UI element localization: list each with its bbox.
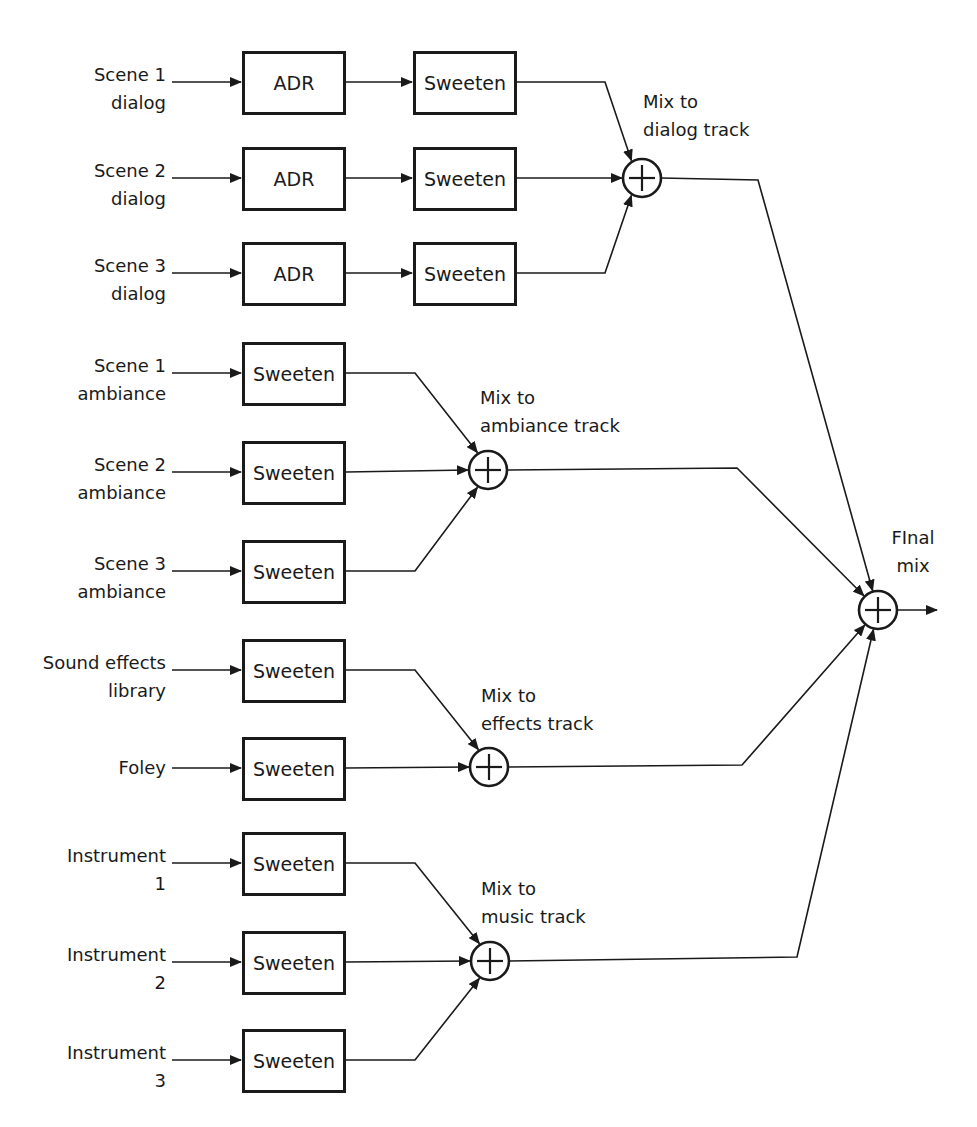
sweeten-box-dialog-2: Sweeten bbox=[413, 147, 517, 211]
signal-flow-diagram: Scene 1dialogADRSweetenScene 2dialogADRS… bbox=[0, 0, 977, 1127]
mix-label-effects-line: effects track bbox=[481, 710, 593, 738]
input-label-ambiance-3-line: ambiance bbox=[78, 578, 166, 606]
wire-effects-1-to-mix bbox=[346, 670, 478, 750]
wire-music-1-to-mix bbox=[346, 863, 479, 944]
input-label-effects-1-line: library bbox=[43, 677, 166, 705]
sweeten-box-ambiance-1-label: Sweeten bbox=[253, 363, 335, 385]
input-label-music-3-line: Instrument bbox=[67, 1039, 166, 1067]
mix-label-effects-line: Mix to bbox=[481, 682, 593, 710]
final-mix-label: FInalmix bbox=[833, 524, 977, 580]
sweeten-box-music-3-label: Sweeten bbox=[253, 1050, 335, 1072]
sweeten-box-ambiance-3-label: Sweeten bbox=[253, 561, 335, 583]
sum-node-music bbox=[471, 942, 509, 980]
adr-box-dialog-3-label: ADR bbox=[274, 263, 315, 285]
input-label-music-1: Instrument1 bbox=[67, 842, 166, 898]
input-label-ambiance-3: Scene 3ambiance bbox=[78, 550, 166, 606]
input-label-effects-2-line: Foley bbox=[119, 754, 166, 782]
input-label-dialog-3-line: Scene 3 bbox=[94, 252, 166, 280]
sweeten-box-ambiance-2-label: Sweeten bbox=[253, 462, 335, 484]
sweeten-box-dialog-1: Sweeten bbox=[413, 51, 517, 115]
final-mix-label-line: FInal bbox=[833, 524, 977, 552]
mix-label-dialog: Mix todialog track bbox=[643, 88, 749, 144]
input-label-music-2-line: Instrument bbox=[67, 941, 166, 969]
mix-label-ambiance: Mix toambiance track bbox=[480, 384, 620, 440]
input-label-effects-1-line: Sound effects bbox=[43, 649, 166, 677]
wire-effects-2-to-mix bbox=[346, 767, 469, 768]
input-label-dialog-1: Scene 1dialog bbox=[94, 61, 166, 117]
input-label-dialog-2: Scene 2dialog bbox=[94, 157, 166, 213]
sweeten-box-dialog-3: Sweeten bbox=[413, 242, 517, 306]
adr-box-dialog-1-label: ADR bbox=[274, 72, 315, 94]
sweeten-box-dialog-3-label: Sweeten bbox=[424, 263, 506, 285]
sweeten-box-effects-2-label: Sweeten bbox=[253, 758, 335, 780]
sweeten-box-music-1: Sweeten bbox=[242, 832, 346, 896]
final-mix-label-line: mix bbox=[833, 552, 977, 580]
input-label-ambiance-1-line: ambiance bbox=[78, 380, 166, 408]
sweeten-box-music-3: Sweeten bbox=[242, 1029, 346, 1093]
input-label-effects-1: Sound effectslibrary bbox=[43, 649, 166, 705]
sweeten-box-effects-1: Sweeten bbox=[242, 639, 346, 703]
sweeten-box-effects-2: Sweeten bbox=[242, 737, 346, 801]
sum-node-ambiance bbox=[469, 451, 507, 489]
input-label-dialog-2-line: dialog bbox=[94, 185, 166, 213]
sum-node-final-mix bbox=[859, 591, 897, 629]
wire-ambiance-2-to-mix bbox=[346, 470, 468, 472]
adr-box-dialog-2-label: ADR bbox=[274, 168, 315, 190]
input-label-ambiance-3-line: Scene 3 bbox=[78, 550, 166, 578]
wire-ambiance-3-to-mix bbox=[346, 487, 477, 571]
input-label-dialog-3: Scene 3dialog bbox=[94, 252, 166, 308]
mix-label-ambiance-line: ambiance track bbox=[480, 412, 620, 440]
input-label-dialog-1-line: dialog bbox=[94, 89, 166, 117]
input-label-music-1-line: Instrument bbox=[67, 842, 166, 870]
sweeten-box-music-2-label: Sweeten bbox=[253, 952, 335, 974]
mix-label-music-line: Mix to bbox=[481, 875, 586, 903]
sweeten-box-dialog-2-label: Sweeten bbox=[424, 168, 506, 190]
wire-dialog-1-to-mix bbox=[517, 82, 631, 161]
adr-box-dialog-2: ADR bbox=[242, 147, 346, 211]
sweeten-box-music-1-label: Sweeten bbox=[253, 853, 335, 875]
input-label-ambiance-2-line: ambiance bbox=[78, 479, 166, 507]
input-label-effects-2: Foley bbox=[119, 754, 166, 782]
input-label-music-1-line: 1 bbox=[67, 870, 166, 898]
input-label-dialog-3-line: dialog bbox=[94, 280, 166, 308]
sweeten-box-effects-1-label: Sweeten bbox=[253, 660, 335, 682]
wire-ambiance-to-final-mix bbox=[507, 468, 864, 596]
sweeten-box-ambiance-3: Sweeten bbox=[242, 540, 346, 604]
adr-box-dialog-3: ADR bbox=[242, 242, 346, 306]
mix-label-dialog-line: Mix to bbox=[643, 88, 749, 116]
input-label-music-2-line: 2 bbox=[67, 969, 166, 997]
input-label-ambiance-1-line: Scene 1 bbox=[78, 352, 166, 380]
input-label-dialog-1-line: Scene 1 bbox=[94, 61, 166, 89]
input-label-music-3: Instrument3 bbox=[67, 1039, 166, 1095]
input-label-ambiance-2-line: Scene 2 bbox=[78, 451, 166, 479]
sum-node-dialog bbox=[623, 159, 661, 197]
sweeten-box-music-2: Sweeten bbox=[242, 931, 346, 995]
mix-label-ambiance-line: Mix to bbox=[480, 384, 620, 412]
input-label-music-2: Instrument2 bbox=[67, 941, 166, 997]
input-label-music-3-line: 3 bbox=[67, 1067, 166, 1095]
wire-dialog-3-to-mix bbox=[517, 195, 631, 273]
wire-music-2-to-mix bbox=[346, 961, 470, 962]
sweeten-box-ambiance-2: Sweeten bbox=[242, 441, 346, 505]
mix-label-dialog-line: dialog track bbox=[643, 116, 749, 144]
mix-label-music: Mix tomusic track bbox=[481, 875, 586, 931]
input-label-ambiance-2: Scene 2ambiance bbox=[78, 451, 166, 507]
input-label-dialog-2-line: Scene 2 bbox=[94, 157, 166, 185]
mix-label-effects: Mix toeffects track bbox=[481, 682, 593, 738]
sweeten-box-dialog-1-label: Sweeten bbox=[424, 72, 506, 94]
wire-ambiance-1-to-mix bbox=[346, 373, 477, 453]
input-label-ambiance-1: Scene 1ambiance bbox=[78, 352, 166, 408]
mix-label-music-line: music track bbox=[481, 903, 586, 931]
adr-box-dialog-1: ADR bbox=[242, 51, 346, 115]
wire-music-3-to-mix bbox=[346, 978, 479, 1060]
sum-node-effects bbox=[470, 748, 508, 786]
sweeten-box-ambiance-1: Sweeten bbox=[242, 342, 346, 406]
